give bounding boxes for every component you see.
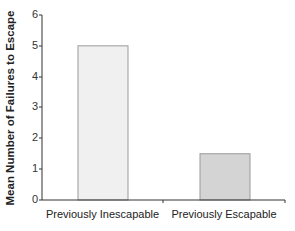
x-category-label: Previously Inescapable bbox=[42, 208, 163, 220]
x-category-label: Previously Escapable bbox=[163, 208, 285, 220]
bar-previously-inescapable bbox=[78, 46, 128, 200]
bar-previously-escapable bbox=[200, 154, 250, 200]
plot-area bbox=[0, 0, 295, 231]
bar-chart: Mean Number of Failures to Escape 6 5 4 … bbox=[0, 0, 295, 231]
